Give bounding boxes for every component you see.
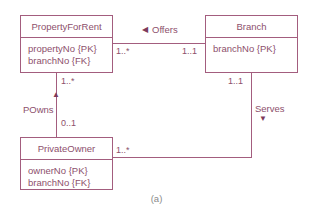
- multiplicity-powns-property-for-rent: 1..*: [61, 76, 75, 86]
- association-line-serves-vertical: [251, 72, 252, 157]
- triangle-left-icon: ◀: [142, 26, 148, 34]
- entity-name-branch: Branch: [206, 16, 297, 38]
- triangle-up-icon: ▲: [52, 91, 60, 99]
- entity-name-property-for-rent: PropertyForRent: [21, 16, 112, 38]
- entity-box-property-for-rent[interactable]: PropertyForRent propertyNo {PK} branchNo…: [20, 15, 113, 73]
- figure-caption: (a): [0, 193, 313, 205]
- triangle-down-icon: ▼: [259, 115, 267, 123]
- multiplicity-serves-branch: 1..1: [228, 76, 243, 86]
- entity-attribute: ownerNo {PK}: [28, 165, 112, 177]
- association-label-powns: POwns: [23, 104, 54, 115]
- entity-attributes-branch: branchNo {PK}: [206, 38, 297, 60]
- entity-box-private-owner[interactable]: PrivateOwner ownerNo {PK} branchNo {FK}: [20, 137, 113, 190]
- entity-attribute: branchNo {FK}: [28, 55, 112, 67]
- entity-attribute: propertyNo {PK}: [28, 43, 112, 55]
- association-label-serves: Serves: [255, 103, 285, 114]
- association-line-serves-horizontal: [112, 157, 252, 158]
- multiplicity-offers-property-for-rent: 1..*: [116, 46, 130, 56]
- entity-box-branch[interactable]: Branch branchNo {PK}: [205, 15, 298, 73]
- entity-name-private-owner: PrivateOwner: [21, 138, 112, 160]
- multiplicity-powns-private-owner: 0..1: [61, 118, 76, 128]
- association-label-offers: Offers: [152, 24, 178, 35]
- entity-attributes-property-for-rent: propertyNo {PK} branchNo {FK}: [21, 38, 112, 71]
- uml-class-diagram: PropertyForRent propertyNo {PK} branchNo…: [0, 0, 313, 215]
- entity-attribute: branchNo {PK}: [213, 43, 297, 55]
- multiplicity-offers-branch: 1..1: [182, 46, 197, 56]
- multiplicity-serves-private-owner: 1..*: [116, 145, 130, 155]
- association-line-offers: [112, 43, 206, 44]
- entity-attributes-private-owner: ownerNo {PK} branchNo {FK}: [21, 160, 112, 193]
- entity-attribute: branchNo {FK}: [28, 177, 112, 189]
- association-line-powns: [56, 72, 57, 138]
